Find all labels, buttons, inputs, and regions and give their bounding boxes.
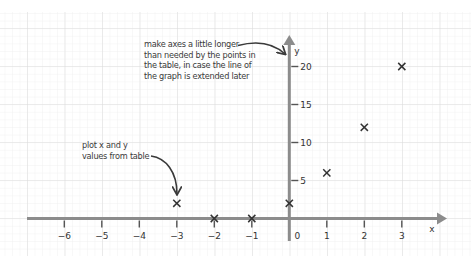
y-axis-label: y xyxy=(294,46,300,56)
y-tick-label: 15 xyxy=(300,100,311,110)
x-tick-label: −2 xyxy=(208,231,221,241)
x-tick-label: 1 xyxy=(324,231,330,241)
annotation-line: values from table xyxy=(82,151,150,161)
x-tick-label: 0 xyxy=(294,231,300,241)
annotation-line: than needed by the points in xyxy=(144,50,255,60)
y-tick-label: 10 xyxy=(300,138,312,148)
graph-canvas: −6−5−4−3−2−10123 5101520 x y make axes a… xyxy=(0,0,471,259)
x-tick-label: 2 xyxy=(361,231,367,241)
x-tick-label: 3 xyxy=(399,231,405,241)
y-tick-label: 20 xyxy=(300,62,312,72)
x-tick-label: −4 xyxy=(133,231,147,241)
x-tick-label: −5 xyxy=(95,231,108,241)
x-tick-label: −1 xyxy=(245,231,258,241)
x-tick-label: −6 xyxy=(58,231,72,241)
annotation-line: the graph is extended later xyxy=(144,71,250,81)
x-axis-label: x xyxy=(429,224,435,234)
y-tick-label: 5 xyxy=(300,176,306,186)
annotation-line: plot x and y xyxy=(82,140,128,150)
annotation-line: the table, in case the line of xyxy=(144,60,253,70)
x-tick: 0 xyxy=(294,231,300,241)
x-tick-label: −3 xyxy=(170,231,183,241)
annotation-line: make axes a little longer xyxy=(144,39,240,49)
